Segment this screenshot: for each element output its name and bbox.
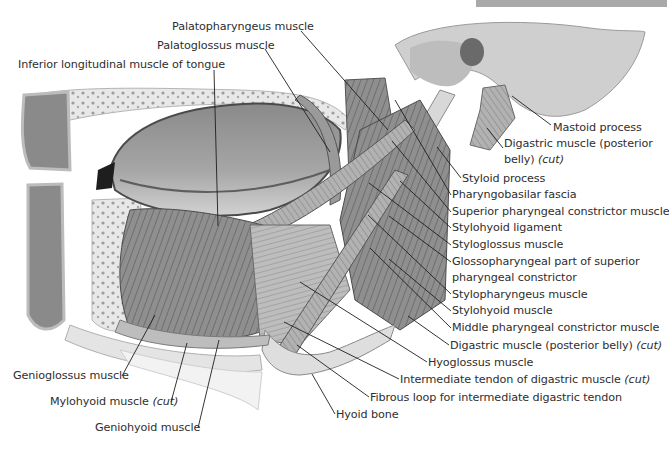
label-intermediate-tendon-text: Intermediate tendon of digastric muscle: [400, 373, 624, 386]
label-mylohyoid-muscle: Mylohyoid muscle (cut): [50, 395, 178, 408]
label-digastric-posterior-belly-upper: Digastric muscle (posterior belly) (cut): [504, 136, 653, 168]
label-glossopharyngeal-line2: pharyngeal constrictor: [452, 271, 577, 284]
label-fibrous-loop: Fibrous loop for intermediate digastric …: [370, 391, 622, 404]
label-stylohyoid-muscle: Stylohyoid muscle: [452, 304, 553, 317]
label-superior-pharyngeal-constrictor: Superior pharyngeal constrictor muscle: [452, 205, 669, 218]
label-hyoid-bone: Hyoid bone: [336, 408, 399, 421]
label-palatopharyngeus-muscle: Palatopharyngeus muscle: [172, 20, 314, 33]
label-digastric-belly-text: Digastric muscle (posterior belly): [450, 339, 636, 352]
label-intermediate-tendon-cut: (cut): [624, 373, 650, 386]
label-palatoglossus-muscle: Palatoglossus muscle: [157, 39, 274, 52]
label-digastric-line2: belly): [504, 153, 538, 166]
label-intermediate-tendon: Intermediate tendon of digastric muscle …: [400, 373, 650, 386]
label-inferior-longitudinal-muscle: Inferior longitudinal muscle of tongue: [18, 58, 225, 71]
label-digastric-posterior-belly-lower: Digastric muscle (posterior belly) (cut): [450, 339, 662, 352]
label-pharyngobasilar-fascia: Pharyngobasilar fascia: [452, 188, 577, 201]
label-digastric-line1: Digastric muscle (posterior: [504, 137, 653, 150]
label-mastoid-process: Mastoid process: [553, 121, 642, 134]
label-hyoglossus-muscle: Hyoglossus muscle: [428, 356, 533, 369]
label-middle-pharyngeal-constrictor: Middle pharyngeal constrictor muscle: [452, 321, 659, 334]
label-glossopharyngeal-part: Glossopharyngeal part of superior pharyn…: [452, 254, 640, 286]
label-digastric-belly-cut: (cut): [636, 339, 662, 352]
label-mylohyoid-cut: (cut): [152, 395, 178, 408]
label-geniohyoid-muscle: Geniohyoid muscle: [95, 421, 200, 434]
label-glossopharyngeal-line1: Glossopharyngeal part of superior: [452, 255, 640, 268]
label-styloglossus-muscle: Styloglossus muscle: [452, 238, 563, 251]
label-stylopharyngeus-muscle: Stylopharyngeus muscle: [452, 288, 588, 301]
label-genioglossus-muscle: Genioglossus muscle: [13, 369, 129, 382]
label-digastric-cut: (cut): [538, 153, 564, 166]
label-mylohyoid-text: Mylohyoid muscle: [50, 395, 152, 408]
label-stylohyoid-ligament: Stylohyoid ligament: [452, 221, 562, 234]
label-styloid-process: Styloid process: [462, 172, 545, 185]
